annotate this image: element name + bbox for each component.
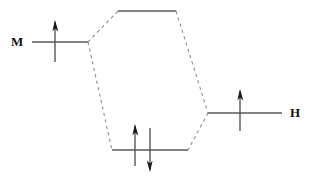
correlation-line-right-to-bonding xyxy=(188,113,208,150)
fragment-label-hydrogen: H xyxy=(290,106,300,119)
mo-diagram-canvas: M H xyxy=(0,0,316,180)
electron-arrow-hydrogen-up xyxy=(237,89,243,131)
electron-arrow-metal-up xyxy=(52,20,58,62)
mo-diagram-svg xyxy=(0,0,316,180)
energy-levels-group xyxy=(32,11,282,150)
correlation-lines-group xyxy=(88,11,208,150)
correlation-line-left-to-antibonding xyxy=(88,11,118,42)
electron-arrow-bonding-up xyxy=(132,124,138,166)
correlation-line-antibonding-to-right xyxy=(176,11,208,113)
correlation-line-left-to-bonding xyxy=(88,42,112,150)
fragment-label-metal: M xyxy=(11,35,23,48)
